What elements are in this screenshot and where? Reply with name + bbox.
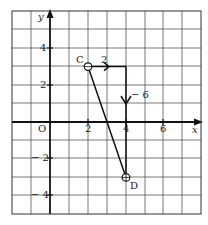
- x-tick-label-2: 2: [85, 123, 91, 134]
- y-axis-label: y: [37, 11, 44, 22]
- x-tick-label-6: 6: [160, 123, 166, 134]
- point-c-label: C: [76, 54, 84, 65]
- y-tick-label-neg4: − 4: [31, 189, 49, 200]
- origin-label: O: [38, 123, 46, 134]
- vertical-arrow-label: − 6: [131, 89, 149, 100]
- x-axis-label: x: [192, 124, 198, 135]
- horizontal-arrow-label: 2: [101, 54, 107, 65]
- y-tick-label-4: 4: [40, 42, 46, 53]
- point-d-label: D: [130, 180, 138, 191]
- coordinate-diagram: y x O 2 4 6 4 2 − 2 − 4 2 − 6 C D: [0, 0, 208, 225]
- y-tick-label-neg2: − 2: [31, 152, 49, 163]
- y-tick-label-2: 2: [40, 79, 46, 90]
- y-axis-arrow-icon: [47, 9, 54, 18]
